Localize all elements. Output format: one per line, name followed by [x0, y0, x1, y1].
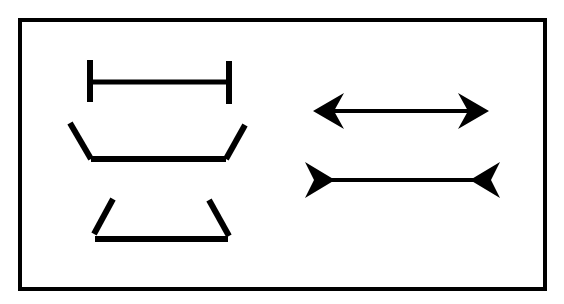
outward-arrow-shaft	[330, 109, 475, 113]
inward-arrow-shaft	[330, 178, 475, 182]
illusion-diagram	[0, 0, 564, 304]
